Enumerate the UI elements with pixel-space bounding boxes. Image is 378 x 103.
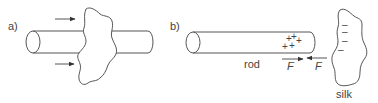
silk-a	[78, 8, 117, 84]
svg-text:–: –	[338, 44, 344, 55]
svg-text:+: +	[289, 40, 295, 51]
rod-label: rod	[244, 58, 260, 70]
panel-a: a)	[8, 8, 153, 84]
rod-charges: + + + + +	[282, 31, 302, 52]
diagram-canvas: a) b) + + + + + rod F F	[0, 0, 378, 103]
force-label-silk: F	[315, 60, 323, 72]
panel-a-label: a)	[8, 20, 18, 32]
force-label-rod: F	[287, 60, 295, 72]
silk-label: silk	[336, 88, 352, 100]
panel-b-label: b)	[170, 20, 180, 32]
panel-b: b) + + + + + rod F F – – – – silk	[170, 9, 367, 100]
svg-text:+: +	[296, 35, 302, 46]
svg-text:+: +	[282, 41, 288, 52]
